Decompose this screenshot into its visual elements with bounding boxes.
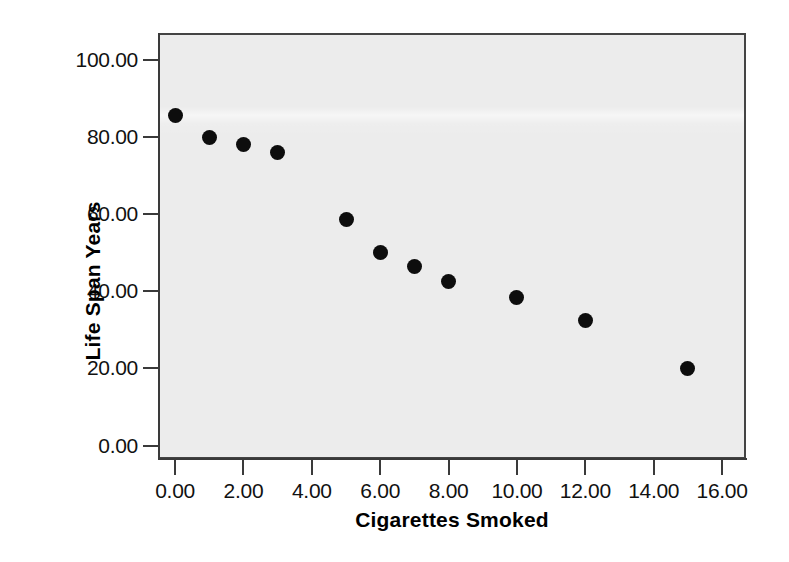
x-axis-tick-label: 14.00: [628, 479, 679, 503]
x-axis-tick-label: 8.00: [429, 479, 469, 503]
x-axis-tick: [379, 460, 381, 475]
y-axis-tick-label: 0.00: [98, 434, 138, 458]
x-axis-tick: [584, 460, 586, 475]
x-axis-tick-label: 12.00: [560, 479, 611, 503]
y-axis-tick: [143, 367, 158, 369]
y-axis-tick: [143, 445, 158, 447]
y-axis-line: [158, 33, 160, 460]
data-point: [168, 108, 183, 123]
plot-background-texture: [160, 35, 744, 457]
y-axis-tick: [143, 213, 158, 215]
x-axis-line: [158, 458, 747, 460]
y-axis-tick: [143, 136, 158, 138]
x-axis-tick: [721, 460, 723, 475]
data-point: [407, 259, 422, 274]
x-axis-tick: [174, 460, 176, 475]
x-axis-tick: [242, 460, 244, 475]
x-axis-tick-label: 0.00: [155, 479, 195, 503]
x-axis-tick-label: 16.00: [697, 479, 748, 503]
x-axis-title: Cigarettes Smoked: [158, 508, 746, 532]
y-axis-tick: [143, 290, 158, 292]
data-point: [509, 290, 524, 305]
x-axis-tick: [516, 460, 518, 475]
x-axis-tick: [448, 460, 450, 475]
y-axis-title: Life Span Years: [81, 201, 105, 360]
x-axis-tick: [653, 460, 655, 475]
plot-area: [158, 33, 746, 459]
data-point: [373, 245, 388, 260]
y-axis-tick-label: 80.00: [87, 125, 138, 149]
data-point: [202, 130, 217, 145]
x-axis-tick-label: 4.00: [292, 479, 332, 503]
x-axis-tick-label: 6.00: [360, 479, 400, 503]
y-axis-tick: [143, 59, 158, 61]
data-point: [339, 212, 354, 227]
x-axis-tick: [311, 460, 313, 475]
scatterplot-figure: 0.0020.0040.0060.0080.00100.00 0.002.004…: [0, 0, 789, 562]
y-axis-tick-label: 100.00: [76, 48, 138, 72]
x-axis-tick-label: 10.00: [491, 479, 542, 503]
data-point: [578, 313, 593, 328]
x-axis-tick-label: 2.00: [224, 479, 264, 503]
